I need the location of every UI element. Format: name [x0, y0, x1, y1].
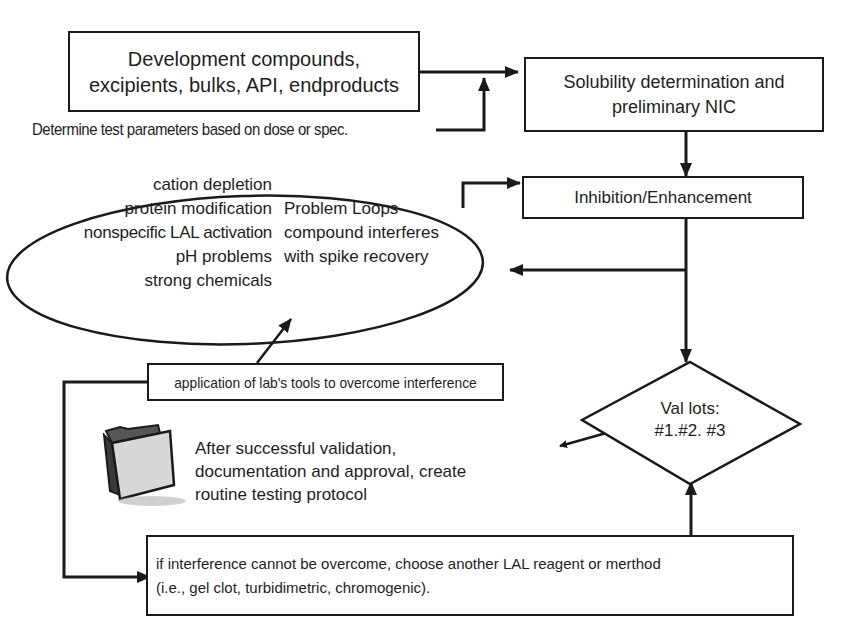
- lab-tools-label: application of lab's tools to overcome i…: [174, 374, 477, 391]
- cause-item: nonspecific LAL activation: [2, 221, 272, 245]
- inhibition-label: Inhibition/Enhancement: [574, 188, 752, 208]
- inhibition-box: Inhibition/Enhancement: [522, 176, 804, 219]
- alternate-method-line2: (i.e., gel clot, turbidimetric, chromoge…: [156, 576, 430, 600]
- solubility-box: Solubility determination and preliminary…: [524, 57, 824, 132]
- folder-icon: [104, 425, 186, 506]
- problem-loops-title: Problem Loops- compound interferes with …: [284, 197, 439, 269]
- solubility-line2: preliminary NIC: [612, 95, 736, 120]
- cause-item: pH problems: [2, 245, 272, 269]
- alternate-method-box: if interference cannot be overcome, choo…: [146, 535, 794, 616]
- val-lots-line2: #1.#2. #3: [640, 420, 740, 442]
- routine-protocol-line2: documentation and approval, create: [195, 460, 466, 483]
- routine-protocol-text: After successful validation, documentati…: [195, 437, 466, 506]
- test-params-label: Determine test parameters based on dose …: [32, 120, 348, 140]
- arrow-test-params-join: [436, 78, 484, 130]
- problem-loops-line3: with spike recovery: [284, 245, 439, 269]
- dev-compounds-line2: excipients, bulks, API, endproducts: [89, 72, 399, 98]
- val-lots-label: Val lots: #1.#2. #3: [640, 398, 740, 442]
- lal-validation-flowchart: Development compounds, excipients, bulks…: [0, 0, 856, 640]
- dev-compounds-line1: Development compounds,: [128, 46, 360, 72]
- routine-protocol-line1: After successful validation,: [195, 437, 466, 460]
- routine-protocol-line3: routine testing protocol: [195, 483, 466, 506]
- val-lots-line1: Val lots:: [640, 398, 740, 420]
- cause-item: strong chemicals: [2, 269, 272, 293]
- dev-compounds-box: Development compounds, excipients, bulks…: [68, 31, 420, 112]
- solubility-line1: Solubility determination and: [563, 70, 784, 95]
- lab-tools-box: application of lab's tools to overcome i…: [147, 363, 504, 401]
- alternate-method-line1: if interference cannot be overcome, choo…: [156, 552, 661, 576]
- problem-loops-line1: Problem Loops-: [284, 197, 439, 221]
- problem-loops-line2: compound interferes: [284, 221, 439, 245]
- cause-item: protein modification: [2, 197, 272, 221]
- interference-causes-list: cation depletion protein modification no…: [2, 173, 272, 293]
- cause-item: cation depletion: [2, 173, 272, 197]
- arrow-loop-to-inhibition: [463, 183, 520, 208]
